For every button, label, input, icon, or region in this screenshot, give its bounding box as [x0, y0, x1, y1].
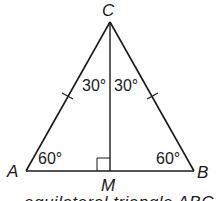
angle-label-bcm: 30° [114, 78, 138, 94]
triangle-diagram: C A B M 30° 30° 60° 60° equilateral tria… [0, 0, 223, 201]
right-angle-mark [97, 158, 110, 171]
vertex-label-m: M [101, 177, 115, 194]
angle-label-acm: 30° [82, 78, 106, 94]
caption-partial: equilateral triangle ABC [24, 193, 214, 201]
triangle-figure [0, 0, 223, 201]
angle-label-b: 60° [156, 151, 180, 167]
vertex-label-a: A [7, 163, 18, 180]
vertex-label-b: B [197, 164, 208, 181]
angle-label-a: 60° [38, 151, 62, 167]
vertex-label-c: C [102, 2, 114, 19]
